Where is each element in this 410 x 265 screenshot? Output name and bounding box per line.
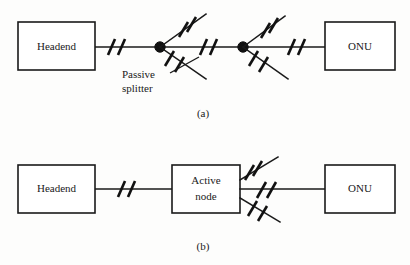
network-architecture-figure: Headend xyxy=(0,0,410,265)
panel-a: Headend xyxy=(18,14,395,120)
panel-b-caption: (b) xyxy=(197,240,210,253)
panel-a-caption: (a) xyxy=(197,107,210,120)
passive-splitter-label-line2: splitter xyxy=(122,82,153,94)
passive-splitter-label-line1: Passive xyxy=(122,68,155,80)
fiber-ticks-splitter1-down xyxy=(165,51,184,72)
active-node-label-line1: Active xyxy=(191,174,220,186)
onu-label-a: ONU xyxy=(348,40,372,52)
headend-label-a: Headend xyxy=(37,40,77,52)
panel-b: Headend Active node xyxy=(18,157,395,253)
onu-label-b: ONU xyxy=(348,182,372,194)
diagram-canvas: Headend xyxy=(0,0,410,265)
fiber-ticks-activenode-onu xyxy=(257,182,276,198)
headend-label-b: Headend xyxy=(37,182,77,194)
fiber-ticks-activenode-up xyxy=(245,161,262,180)
active-node-label-line2: node xyxy=(195,190,217,202)
